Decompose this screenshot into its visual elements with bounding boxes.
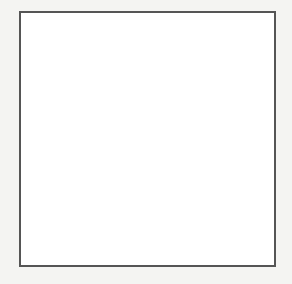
graph — [0, 0, 292, 284]
plot-area — [20, 12, 275, 266]
